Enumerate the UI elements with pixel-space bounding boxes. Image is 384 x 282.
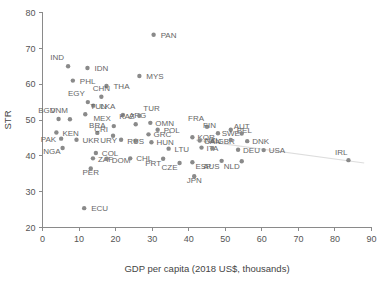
point-marker-swe [229,138,233,142]
point-label-cri: CRI [94,125,108,134]
data-point[interactable]: ECU [82,204,108,213]
y-tick-label: 40 [25,151,35,161]
point-label-nga: NGA [43,147,61,156]
y-tick-label: 30 [25,187,35,197]
point-marker-pak [59,136,63,140]
data-point[interactable]: CZE [162,161,182,172]
y-tick-label: 20 [25,223,35,233]
data-point[interactable]: ZAF [91,155,113,164]
point-label-nld: NLD [224,162,240,171]
data-point[interactable]: URY [100,136,123,145]
point-marker-nld [240,159,244,163]
point-label-irl: IRL [335,148,348,157]
point-marker-omn [148,121,152,125]
point-marker-aut [240,131,244,135]
y-tick-label: 80 [25,8,35,18]
point-label-swe: SWE [222,129,240,138]
data-point[interactable]: AUS [203,159,224,171]
point-label-per: PER [83,168,100,177]
point-label-dom: DOM [112,156,131,165]
y-tick-label: 50 [25,115,35,125]
point-marker-chl [128,156,132,160]
point-label-ury: URY [100,136,117,145]
point-label-rus: RUS [127,137,144,146]
point-marker-prt [161,157,165,161]
point-label-kaz: KAZ [119,112,135,121]
point-marker-idn [85,66,89,70]
data-point[interactable]: IDN [85,64,108,73]
y-tick-label: 60 [25,79,35,89]
point-label-pan: PAN [161,31,177,40]
point-label-egy: EGY [68,89,86,98]
point-marker-bgd [56,117,60,121]
x-tick-label: 80 [330,234,340,244]
data-point[interactable]: MYS [137,72,164,81]
scatter-chart: 203040506070800102030405060708090 PANIND… [0,0,384,282]
point-marker-dnk [245,139,249,143]
point-marker-tun [83,112,87,116]
data-point[interactable]: NGA [43,146,65,156]
point-label-ltu: LTU [175,145,190,154]
data-point[interactable]: PAN [151,31,176,40]
data-point[interactable]: NLD [224,159,244,171]
point-label-ukr: UKR [82,136,99,145]
point-marker-deu [236,148,240,152]
data-point[interactable]: PAK [41,135,64,144]
point-label-aus: AUS [203,162,219,171]
chart-canvas: 203040506070800102030405060708090 PANIND… [0,0,384,282]
data-point[interactable]: KEN [54,129,79,138]
x-tick-label: 60 [257,234,267,244]
point-marker-cze [177,161,181,165]
data-point[interactable]: PER [83,166,100,177]
point-label-cze: CZE [162,163,178,172]
point-label-pak: PAK [41,135,57,144]
point-marker-tur [137,114,141,118]
data-point[interactable]: EGY [68,89,90,104]
point-marker-mex [112,124,116,128]
data-point[interactable]: CHN [93,84,111,99]
point-label-tur: TUR [143,104,160,113]
point-label-can: CAN [204,137,221,146]
x-tick-label: 20 [111,234,121,244]
data-point[interactable]: RUS [127,137,144,146]
point-label-ind: IND [50,53,64,62]
point-marker-ury [119,138,123,142]
x-tick-label: 0 [40,234,45,244]
data-point[interactable]: USA [261,146,285,155]
y-tick-label: 70 [25,44,35,54]
point-marker-phl [71,78,75,82]
point-label-ken: KEN [62,129,79,138]
data-point[interactable]: HUN [149,138,174,147]
point-marker-nzl [197,138,201,142]
point-label-chn: CHN [93,84,111,93]
point-label-idn: IDN [94,64,108,73]
point-marker-pan [151,33,155,37]
axes: 203040506070800102030405060708090 [25,8,376,244]
point-marker-hun [149,140,153,144]
point-label-jpn: JPN [187,176,202,185]
x-tick-label: 10 [74,234,84,244]
data-point[interactable]: DEU [236,146,260,155]
data-point[interactable]: JPN [187,174,202,185]
point-marker-esp [190,160,194,164]
point-marker-zaf [91,156,95,160]
point-label-vnm: VNM [50,106,68,115]
point-label-ecu: ECU [91,204,108,213]
x-tick-label: 40 [184,234,194,244]
x-tick-label: 90 [366,234,376,244]
data-point[interactable]: VNM [50,106,72,121]
point-label-mys: MYS [146,72,163,81]
point-marker-ukr [74,138,78,142]
point-label-usa: USA [269,146,286,155]
point-label-tun: TUN [90,102,107,111]
point-marker-kor [190,135,194,139]
point-marker-can [210,146,214,150]
point-marker-kaz [134,122,138,126]
data-point[interactable]: IND [50,53,70,68]
y-axis-title: STR [2,110,13,129]
point-marker-nga [60,146,64,150]
point-label-fin: FIN [203,121,216,130]
point-marker-usa [261,148,265,152]
point-marker-ltu [166,146,170,150]
point-marker-fin [216,131,220,135]
